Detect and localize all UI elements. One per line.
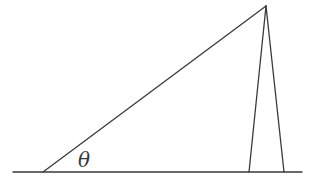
outer-side-line	[266, 6, 284, 172]
hypotenuse-line	[43, 6, 266, 172]
inner-side-line	[249, 6, 266, 172]
angle-theta-label: θ	[78, 150, 90, 170]
diagram-canvas	[0, 0, 313, 190]
triangle-diagram: θ	[0, 0, 313, 190]
